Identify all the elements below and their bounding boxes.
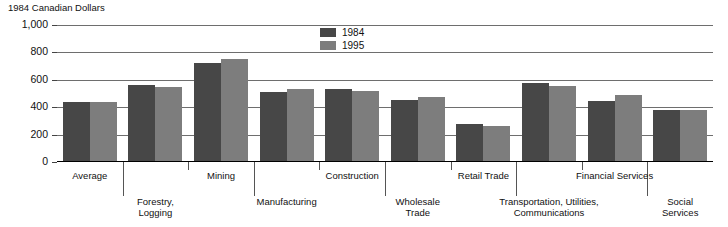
bar-group <box>647 25 713 162</box>
bar-group <box>57 25 123 162</box>
x-axis-label: WholesaleTrade <box>362 196 474 218</box>
y-tick-label: 0 <box>0 156 48 167</box>
x-tick-mark <box>319 162 320 170</box>
bar-1984 <box>588 101 615 162</box>
bar-1984 <box>260 92 287 162</box>
x-axis-label: Transportation, Utilities,Communications <box>493 196 605 218</box>
bar-group <box>188 25 254 162</box>
x-axis-label: SocialServices <box>624 196 728 218</box>
y-tick-label: 400 <box>0 101 48 112</box>
x-tick-mark <box>188 162 189 170</box>
bar-group <box>582 25 648 162</box>
chart-axis-title: 1984 Canadian Dollars <box>8 2 105 13</box>
x-axis-label: Average <box>34 170 146 181</box>
bar-1984 <box>194 63 221 162</box>
bar-group <box>123 25 189 162</box>
bar-1984 <box>653 110 680 162</box>
x-tick-mark <box>451 162 452 170</box>
x-tick-mark <box>582 162 583 170</box>
bar-group <box>451 25 517 162</box>
plot-area <box>57 25 713 162</box>
bar-1995 <box>352 91 379 162</box>
bar-group <box>319 25 385 162</box>
bar-1984 <box>391 100 418 162</box>
bar-1984 <box>522 83 549 162</box>
bar-1984 <box>128 85 155 162</box>
x-axis-label: Manufacturing <box>231 196 343 207</box>
x-axis-label: Financial Services <box>559 170 671 181</box>
bar-group <box>516 25 582 162</box>
bar-groups <box>57 25 713 162</box>
bar-chart: 1984 Canadian Dollars 1984 1995 02004006… <box>0 0 728 227</box>
y-tick-label: 800 <box>0 46 48 57</box>
bar-1995 <box>418 97 445 162</box>
bar-1984 <box>63 102 90 162</box>
x-axis-label: Mining <box>165 170 277 181</box>
y-tick-label: 1,000 <box>0 19 48 30</box>
y-tick-label: 600 <box>0 74 48 85</box>
bar-1995 <box>549 86 576 162</box>
bar-1995 <box>90 102 117 162</box>
bar-1995 <box>287 89 314 162</box>
bar-1995 <box>615 95 642 162</box>
bar-group <box>254 25 320 162</box>
bar-1984 <box>456 124 483 162</box>
bar-group <box>385 25 451 162</box>
bar-1995 <box>221 59 248 162</box>
y-tick-mark <box>52 162 57 163</box>
y-tick-label: 200 <box>0 129 48 140</box>
bar-1995 <box>155 87 182 162</box>
x-axis-label: Retail Trade <box>427 170 539 181</box>
bar-1995 <box>483 126 510 162</box>
x-axis-label: Construction <box>296 170 408 181</box>
x-axis-label: Forestry,Logging <box>99 196 211 218</box>
bar-1984 <box>325 89 352 162</box>
bar-1995 <box>680 110 707 162</box>
